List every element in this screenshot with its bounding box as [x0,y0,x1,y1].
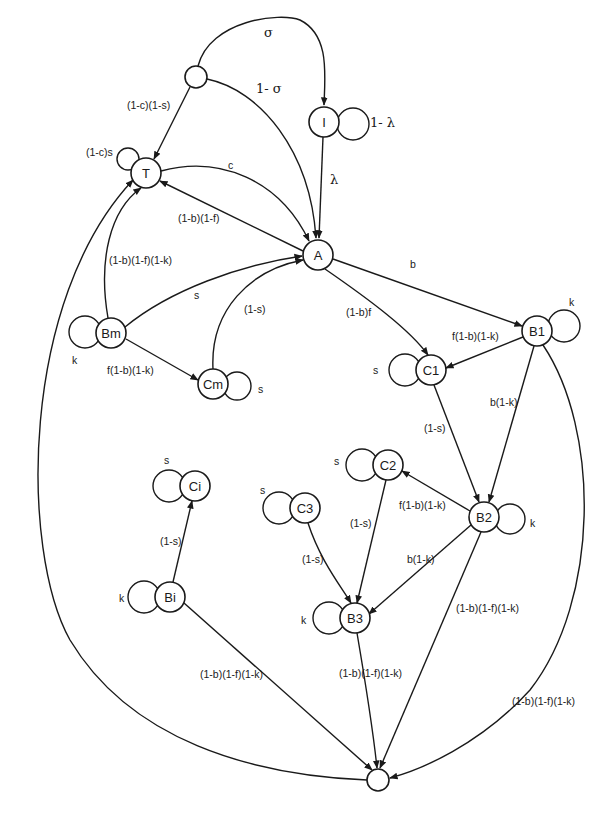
label-B1-self: k [569,296,575,308]
nodes: I T A Bm Cm B1 C1 C2 [96,66,552,791]
label-Bm-to-A: s [194,289,199,301]
node-C1-label: C1 [423,363,440,378]
node-Bi[interactable]: Bi [155,582,185,612]
label-A-to-B1: b [410,258,416,270]
node-Cm[interactable]: Cm [198,369,228,399]
label-Bm-to-T: (1-b)(1-f)(1-k) [109,254,172,266]
label-C2-to-B3: (1-s) [350,517,372,529]
node-Bm-label: Bm [101,326,121,341]
node-C2-label: C2 [380,458,397,473]
label-junction-to-T: (1-c)(1-s) [127,99,170,111]
node-I-label: I [322,115,326,130]
edge-T-to-A [161,166,309,241]
label-Bi-to-Ci: (1-s) [160,535,182,547]
node-B2[interactable]: B2 [469,502,499,532]
label-Ci-self: s [164,454,169,466]
label-B3-self: k [301,614,307,626]
node-C3-label: C3 [297,501,314,516]
label-sigma: σ [264,25,273,40]
node-Cm-label: Cm [203,377,223,392]
label-T-self: (1-c)s [86,146,113,158]
edge-B2-to-bottom [380,532,481,768]
node-bottom-junction[interactable] [367,769,389,791]
node-B1[interactable]: B1 [522,316,552,346]
label-B2-to-bottom: (1-b)(1-f)(1-k) [456,602,519,614]
label-Bi-self: k [119,592,125,604]
node-C1[interactable]: C1 [416,355,446,385]
edge-junction-to-A [207,79,316,238]
label-lambda: λ [330,172,338,187]
node-B2-label: B2 [476,510,492,525]
edge-C2-to-B3 [357,480,386,603]
self-loop-I [337,108,369,140]
label-C3-self: s [260,484,265,496]
label-B1-to-B2: b(1-k) [490,396,517,408]
label-C2-self: s [334,455,339,467]
node-Ci-label: Ci [189,479,201,494]
edge-junction-to-T [154,87,190,159]
edge-Bm-to-A [125,256,302,327]
label-Bm-self: k [72,354,78,366]
node-top-junction[interactable] [185,66,207,88]
node-Bi-label: Bi [164,590,176,605]
edge-B1-to-B2 [489,346,534,502]
node-T[interactable]: T [131,158,161,188]
node-Ci[interactable]: Ci [180,471,210,501]
edge-B2-to-B3 [369,525,471,614]
node-B3-label: B3 [347,611,363,626]
label-C1-self: s [373,364,378,376]
label-C3-to-B3: (1-s) [302,553,324,565]
node-A-label: A [314,248,323,263]
label-C1-to-B2: (1-s) [424,422,446,434]
label-A-to-C1: (1-b)f [346,306,371,318]
node-C2[interactable]: C2 [373,450,403,480]
node-B3[interactable]: B3 [340,603,370,633]
node-C3[interactable]: C3 [290,493,320,523]
node-B1-label: B1 [529,324,545,339]
edge-B3-to-bottom [357,633,377,768]
label-one-minus-lambda: 1- λ [370,115,395,130]
label-T-to-A: c [228,159,233,171]
label-B3-to-bottom: (1-b)(1-f)(1-k) [339,667,402,679]
edge-I-to-A [319,137,323,238]
label-B1-to-C1: f(1-b)(1-k) [452,330,499,342]
self-loop-B1 [548,310,580,342]
label-B2-to-C2: f(1-b)(1-k) [399,499,446,511]
node-Bm[interactable]: Bm [96,318,126,348]
label-A-to-T: (1-b)(1-f) [178,212,219,224]
label-B2-to-B3: b(1-k) [407,553,434,565]
edge-C1-to-B2 [434,385,479,502]
label-Cm-self: s [258,383,263,395]
label-B2-self: k [530,517,536,529]
edge-A-to-C1 [325,269,428,355]
label-B1-to-bottom: (1-b)(1-f)(1-k) [512,695,575,707]
node-T-label: T [142,166,150,181]
node-I[interactable]: I [309,107,339,137]
label-Bi-to-bottom: (1-b)(1-f)(1-k) [200,668,263,680]
label-Cm-to-A: (1-s) [244,303,266,315]
node-A[interactable]: A [303,240,333,270]
label-Bm-to-Cm: f(1-b)(1-k) [107,364,154,376]
state-transition-diagram: I T A Bm Cm B1 C1 C2 [0,0,613,823]
label-one-minus-sigma: 1- σ [256,81,282,96]
